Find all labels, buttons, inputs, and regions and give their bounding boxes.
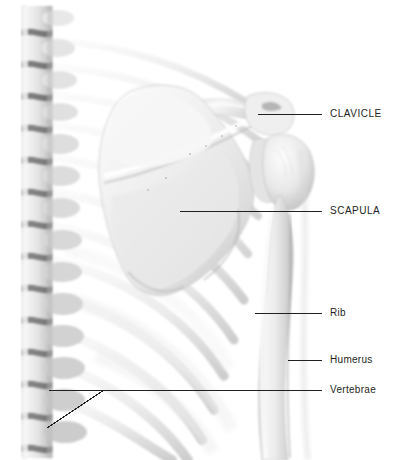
label-vertebrae: Vertebrae — [330, 385, 376, 395]
label-clavicle: CLAVICLE — [330, 109, 382, 119]
label-humerus: Humerus — [330, 355, 373, 365]
anatomy-figure: CLAVICLE SCAPULA Rib Humerus Vertebrae — [0, 0, 400, 460]
label-rib: Rib — [330, 308, 346, 318]
label-scapula: SCAPULA — [330, 206, 380, 216]
